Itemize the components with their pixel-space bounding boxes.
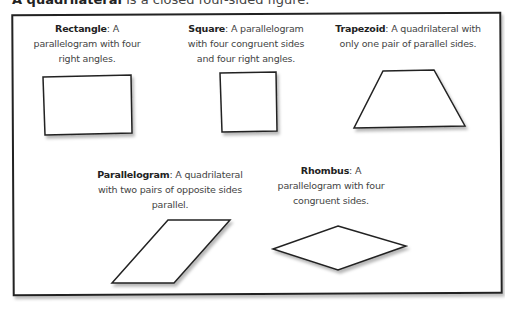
parallelogram-shape bbox=[112, 220, 230, 283]
trapezoid-shape bbox=[354, 70, 465, 128]
rectangle-shape bbox=[43, 75, 132, 135]
square-shape bbox=[220, 72, 277, 132]
rhombus-shape bbox=[273, 226, 406, 270]
shapes-canvas bbox=[0, 0, 505, 309]
